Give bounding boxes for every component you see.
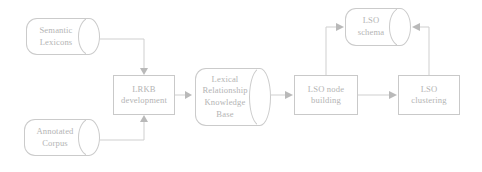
node-label-line-2: schema bbox=[358, 27, 385, 39]
node-lso-clustering[interactable]: LSO clustering bbox=[398, 75, 460, 115]
node-label-line-1: LSO bbox=[358, 15, 385, 27]
node-lrkb-development[interactable]: LRKB development bbox=[113, 75, 175, 115]
cylinder-seam bbox=[257, 69, 260, 125]
node-semantic-lexicons[interactable]: Semantic Lexicons bbox=[26, 18, 100, 55]
arrowhead-right-lso-node bbox=[285, 91, 293, 99]
cylinder-seam bbox=[86, 19, 89, 54]
node-label-line-2: building bbox=[308, 95, 344, 106]
node-label-wrapper: LSO node building bbox=[305, 84, 347, 107]
node-label-wrapper: LSO clustering bbox=[408, 84, 449, 107]
arrowhead-right-lso-clustering bbox=[389, 91, 397, 99]
node-label-line-2: clustering bbox=[411, 95, 446, 106]
node-label-wrapper: LRKB development bbox=[118, 84, 170, 107]
node-label-line-1: LSO bbox=[411, 84, 446, 95]
arrowhead-right-lso-schema bbox=[336, 23, 344, 31]
node-lso-schema[interactable]: LSO schema bbox=[345, 8, 411, 46]
node-label-wrapper: Lexical Relationship Knowledge Base bbox=[195, 68, 255, 126]
node-label-line-1: Annotated bbox=[36, 126, 73, 138]
node-label-line-1: Lexical bbox=[202, 74, 247, 86]
node-label-wrapper: Annotated Corpus bbox=[24, 119, 86, 156]
cylinder-seam bbox=[86, 120, 89, 155]
edge-lso-clustering-to-lso-schema bbox=[420, 27, 429, 75]
arrowhead-up-lrkb bbox=[140, 115, 148, 122]
node-label-line-1: Semantic bbox=[39, 25, 72, 37]
arrowhead-right-knowledge-base bbox=[185, 91, 192, 99]
node-label-line-3: Knowledge bbox=[202, 97, 247, 109]
node-lso-node-building[interactable]: LSO node building bbox=[294, 75, 358, 115]
node-label-line-2: Corpus bbox=[36, 138, 73, 150]
node-label-line-2: Relationship bbox=[202, 85, 247, 97]
node-lexical-relationship-knowledge-base[interactable]: Lexical Relationship Knowledge Base bbox=[195, 68, 271, 126]
node-label-wrapper: LSO schema bbox=[345, 8, 397, 46]
cylinder-seam bbox=[397, 9, 400, 45]
node-label-line-2: Lexicons bbox=[39, 37, 72, 49]
arrowhead-left-lso-schema bbox=[412, 23, 420, 31]
node-label-line-1: LRKB bbox=[121, 84, 167, 95]
edge-semantic-lexicons-to-lrkb bbox=[100, 39, 144, 68]
node-label-line-4: Base bbox=[202, 109, 247, 121]
node-annotated-corpus[interactable]: Annotated Corpus bbox=[24, 119, 100, 156]
node-label-line-2: development bbox=[121, 95, 167, 106]
node-label-line-1: LSO node bbox=[308, 84, 344, 95]
arrowhead-down-lrkb bbox=[140, 68, 148, 75]
edge-lso-node-to-lso-schema bbox=[326, 27, 336, 75]
node-label-wrapper: Semantic Lexicons bbox=[26, 18, 86, 55]
edge-annotated-corpus-to-lrkb bbox=[100, 122, 144, 140]
diagram-canvas: Semantic Lexicons Annotated Corpus LRKB … bbox=[0, 0, 482, 172]
